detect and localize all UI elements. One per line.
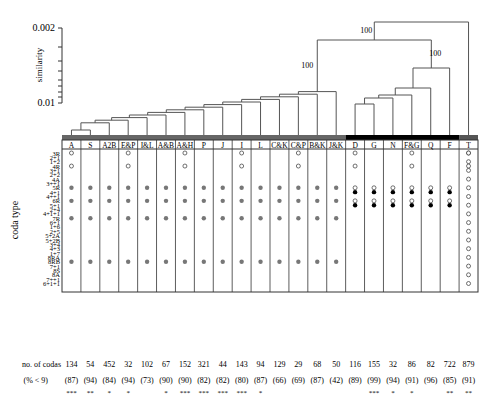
- svg-text:50: 50: [332, 360, 340, 369]
- svg-text:68: 68: [313, 360, 321, 369]
- svg-text:82: 82: [427, 360, 435, 369]
- svg-text:321: 321: [198, 360, 210, 369]
- svg-text:T: T: [466, 141, 471, 150]
- svg-text:J&K: J&K: [329, 141, 344, 150]
- svg-text:(42): (42): [330, 376, 344, 385]
- svg-text:(87): (87): [311, 376, 325, 385]
- svg-text:P: P: [202, 141, 206, 150]
- svg-text:(80): (80): [235, 376, 249, 385]
- svg-text:J: J: [221, 141, 224, 150]
- svg-text:(89): (89): [348, 376, 362, 385]
- svg-text:116: 116: [349, 360, 361, 369]
- svg-text:**: **: [87, 389, 95, 397]
- svg-text:0.002: 0.002: [33, 22, 56, 33]
- svg-text:100: 100: [429, 49, 441, 58]
- svg-text:E&P: E&P: [121, 141, 136, 150]
- svg-text:86: 86: [408, 360, 416, 369]
- svg-text:143: 143: [236, 360, 248, 369]
- svg-text:(87): (87): [65, 376, 79, 385]
- svg-text:100: 100: [301, 61, 313, 70]
- svg-text:29: 29: [294, 360, 302, 369]
- svg-text:B&K: B&K: [309, 141, 326, 150]
- svg-text:*: *: [126, 389, 130, 397]
- svg-text:67: 67: [162, 360, 170, 369]
- svg-text:A2B: A2B: [102, 141, 116, 150]
- svg-text:722: 722: [444, 360, 456, 369]
- svg-text:(69): (69): [292, 376, 306, 385]
- svg-text:(94): (94): [386, 376, 400, 385]
- svg-text:no. of codas: no. of codas: [22, 360, 61, 369]
- svg-text:(% < 9): (% < 9): [23, 376, 48, 385]
- svg-text:***: ***: [180, 389, 191, 397]
- svg-text:(85): (85): [443, 376, 457, 385]
- svg-text:0.01: 0.01: [38, 97, 56, 108]
- svg-text:*: *: [164, 389, 168, 397]
- svg-text:coda type: coda type: [9, 200, 20, 239]
- svg-text:100: 100: [360, 26, 372, 35]
- svg-text:6+1+1: 6+1+1: [43, 280, 60, 287]
- svg-text:C&P: C&P: [291, 141, 306, 150]
- svg-text:A&B: A&B: [158, 141, 174, 150]
- svg-text:S: S: [88, 141, 92, 150]
- svg-text:(91): (91): [405, 376, 419, 385]
- svg-text:44: 44: [219, 360, 227, 369]
- svg-text:129: 129: [273, 360, 285, 369]
- svg-text:***: ***: [236, 389, 247, 397]
- svg-text:D: D: [352, 141, 358, 150]
- svg-text:879: 879: [463, 360, 475, 369]
- svg-text:***: ***: [199, 389, 210, 397]
- svg-text:(90): (90): [178, 376, 192, 385]
- svg-text:similarity: similarity: [34, 47, 44, 82]
- svg-text:(99): (99): [367, 376, 381, 385]
- svg-text:(84): (84): [103, 376, 117, 385]
- svg-text:*: *: [108, 389, 112, 397]
- svg-text:102: 102: [141, 360, 153, 369]
- svg-text:L: L: [258, 141, 263, 150]
- svg-text:32: 32: [389, 360, 397, 369]
- svg-text:***: ***: [66, 389, 77, 397]
- svg-text:(91): (91): [462, 376, 476, 385]
- svg-text:(82): (82): [216, 376, 230, 385]
- svg-text:**: **: [446, 389, 454, 397]
- figure: 0.0020.01similarityASA2BE&PI&LA&BA&HPJIL…: [0, 0, 503, 408]
- svg-text:***: ***: [217, 389, 228, 397]
- svg-text:A&H: A&H: [177, 141, 194, 150]
- svg-text:*: *: [391, 389, 395, 397]
- svg-text:(90): (90): [159, 376, 173, 385]
- svg-text:155: 155: [368, 360, 380, 369]
- svg-text:(82): (82): [197, 376, 211, 385]
- svg-text:134: 134: [65, 360, 77, 369]
- svg-text:(73): (73): [140, 376, 154, 385]
- svg-text:F: F: [448, 141, 452, 150]
- svg-text:(66): (66): [273, 376, 287, 385]
- svg-text:**: **: [465, 389, 473, 397]
- svg-text:*: *: [259, 389, 263, 397]
- svg-text:(87): (87): [254, 376, 268, 385]
- svg-text:32: 32: [124, 360, 132, 369]
- svg-text:F&G: F&G: [404, 141, 420, 150]
- svg-text:G: G: [371, 141, 377, 150]
- svg-text:*: *: [410, 389, 414, 397]
- svg-text:A: A: [69, 141, 75, 150]
- dendrogram-dot-matrix: 0.0020.01similarityASA2BE&PI&LA&BA&HPJIL…: [0, 0, 503, 408]
- svg-text:(94): (94): [84, 376, 98, 385]
- svg-text:I&L: I&L: [141, 141, 154, 150]
- svg-text:152: 152: [179, 360, 191, 369]
- svg-text:I: I: [240, 141, 243, 150]
- svg-text:N: N: [390, 141, 396, 150]
- svg-text:Q: Q: [428, 141, 434, 150]
- svg-text:(94): (94): [122, 376, 136, 385]
- svg-text:***: ***: [369, 389, 380, 397]
- svg-text:452: 452: [103, 360, 115, 369]
- svg-text:C&K: C&K: [271, 141, 288, 150]
- svg-text:(96): (96): [424, 376, 438, 385]
- svg-text:54: 54: [86, 360, 94, 369]
- svg-text:94: 94: [257, 360, 265, 369]
